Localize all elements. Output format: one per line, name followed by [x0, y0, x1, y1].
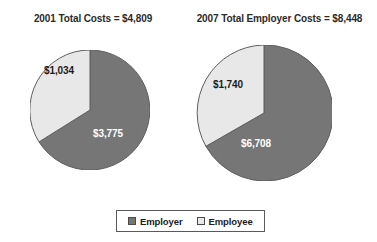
legend-entry-employee: Employee [197, 216, 253, 227]
legend-swatch-employer-icon [128, 217, 136, 225]
legend-label-employer: Employer [140, 216, 183, 227]
pie-chart-2007 [196, 45, 332, 181]
pie-label-employee-2001: $1,034 [44, 65, 74, 76]
chart-title-2007: 2007 Total Employer Costs = $8,448 [182, 13, 377, 24]
legend-entry-employer: Employer [128, 216, 183, 227]
legend-swatch-employee-icon [197, 217, 205, 225]
pie-svg-2007 [196, 45, 332, 181]
pie-chart-figure: 2001 Total Costs = $4,809 2007 Total Emp… [0, 0, 377, 242]
legend-label-employee: Employee [209, 216, 253, 227]
chart-legend: Employer Employee [116, 210, 265, 232]
pie-label-employer-2007: $6,708 [241, 138, 271, 149]
pie-label-employer-2001: $3,775 [93, 128, 123, 139]
chart-title-2001: 2001 Total Costs = $4,809 [0, 13, 186, 24]
pie-label-employee-2007: $1,740 [213, 79, 243, 90]
